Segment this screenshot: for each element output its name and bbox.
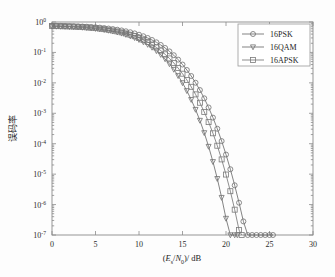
y-tick-label: 10-2: [33, 78, 46, 88]
y-axis-label-text: 误码率: [7, 115, 18, 142]
legend: 16PSK16QAM16APSK: [238, 24, 310, 66]
y-axis-label: 误码率: [7, 115, 18, 142]
x-tick-label: 10: [135, 240, 143, 249]
figure-canvas: 051015202530 10010-110-210-310-410-510-6…: [0, 0, 335, 277]
x-axis-tick-labels: 051015202530: [50, 240, 317, 249]
y-axis-tick-labels: 10010-110-210-310-410-510-610-7: [33, 17, 46, 240]
legend-label: 16QAM: [270, 43, 297, 52]
series-16APSK: [50, 24, 245, 238]
y-tick-label: 10-7: [33, 230, 46, 240]
svg-text:(Es/N0)/ dB: (Es/N0)/ dB: [163, 253, 202, 265]
x-tick-label: 0: [50, 240, 54, 249]
legend-label: 16APSK: [270, 56, 299, 65]
y-tick-label: 10-1: [33, 47, 46, 57]
x-tick-label: 25: [266, 240, 274, 249]
x-tick-label: 15: [179, 240, 187, 249]
y-tick-label: 10-3: [33, 108, 46, 118]
legend-label: 16PSK: [270, 30, 293, 39]
x-axis-label: (Es/N0)/ dB: [163, 253, 202, 265]
y-tick-label: 10-5: [33, 169, 46, 179]
y-tick-label: 10-4: [33, 139, 46, 149]
y-tick-label: 100: [35, 17, 46, 27]
x-tick-label: 20: [222, 240, 230, 249]
x-tick-label: 30: [309, 240, 317, 249]
y-tick-label: 10-6: [33, 200, 46, 210]
ber-semilog-chart: 051015202530 10010-110-210-310-410-510-6…: [0, 0, 335, 277]
x-tick-label: 5: [94, 240, 98, 249]
